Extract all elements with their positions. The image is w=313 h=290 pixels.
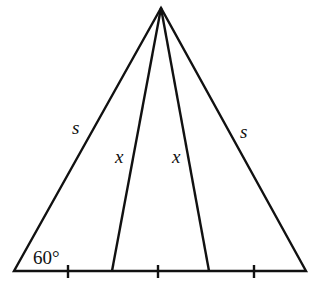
triangle-diagram: s s x x 60° (0, 0, 313, 290)
right-cevian (161, 8, 209, 271)
left-cevian (112, 8, 161, 271)
label-right-side: s (240, 121, 247, 142)
label-angle: 60° (33, 247, 60, 268)
label-left-cevian: x (114, 146, 124, 167)
outer-triangle (14, 8, 306, 271)
label-left-side: s (72, 117, 79, 138)
label-right-cevian: x (171, 146, 181, 167)
